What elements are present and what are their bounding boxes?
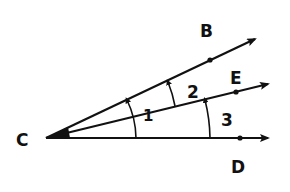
label-b: B xyxy=(200,21,213,41)
angle-3-arc xyxy=(205,100,210,138)
point-b-dot xyxy=(207,57,212,62)
ray-ce xyxy=(46,84,268,138)
vertex-c-mark xyxy=(46,127,70,138)
label-d: D xyxy=(231,157,245,177)
ray-cd xyxy=(46,135,268,140)
label-e: E xyxy=(230,68,242,88)
angle-1-label: 1 xyxy=(143,107,153,125)
point-e-dot xyxy=(233,89,238,94)
angle-diagram: C B E D 1 2 3 xyxy=(0,0,290,192)
label-c: C xyxy=(16,130,28,150)
angle-2-arc xyxy=(168,82,175,106)
angle-3-label: 3 xyxy=(221,110,233,130)
angle-2-label: 2 xyxy=(187,82,199,102)
point-d-dot xyxy=(237,135,242,140)
